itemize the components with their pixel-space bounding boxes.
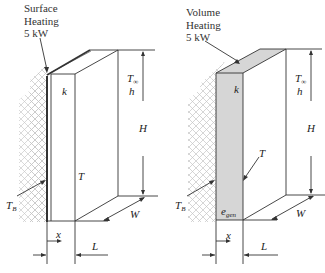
title-line: Volume (186, 6, 221, 19)
height-label: H (139, 122, 147, 134)
x-axis-label: x (56, 228, 61, 240)
title-line: Heating (186, 19, 221, 32)
title-line: 5 kW (24, 27, 59, 40)
title-line: Surface (24, 2, 59, 15)
right-title: Volume Heating 5 kW (186, 6, 221, 44)
height-label: H (307, 122, 315, 134)
conductivity-label: k (234, 83, 239, 95)
heat-coeff-label: h (297, 85, 303, 97)
base-temp-label: TB (175, 199, 185, 215)
width-label: W (296, 207, 305, 219)
base-temp-label: TB (6, 199, 16, 215)
title-line: 5 kW (186, 31, 221, 44)
generation-sub: gen (226, 211, 236, 219)
thickness-label: L (92, 240, 98, 252)
thickness-label: L (261, 240, 267, 252)
x-axis-label: x (226, 229, 231, 241)
diagram-canvas (0, 0, 325, 273)
width-label: W (130, 208, 139, 220)
conductivity-label: k (62, 85, 67, 97)
left-title: Surface Heating 5 kW (24, 2, 59, 40)
base-temp-sub: B (12, 205, 16, 213)
temperature-label: T (259, 147, 265, 159)
generation-label: egen (221, 205, 236, 221)
heat-coeff-label: h (129, 85, 135, 97)
base-temp-sub: B (181, 205, 185, 213)
temperature-label: T (78, 170, 84, 182)
title-line: Heating (24, 15, 59, 28)
